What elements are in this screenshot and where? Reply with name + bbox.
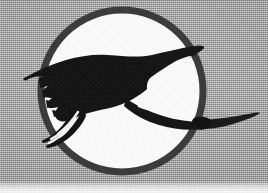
logo-canvas — [0, 0, 268, 193]
crane-emblem — [0, 0, 268, 193]
